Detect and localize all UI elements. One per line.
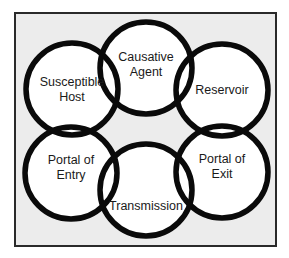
reservoir-label-line: Reservoir — [195, 83, 249, 97]
susceptible-host-label-line: Host — [59, 90, 85, 104]
portal-of-exit-label-line: Exit — [212, 167, 233, 181]
susceptible-host-label-line: Susceptible — [40, 75, 105, 89]
causative-agent-label-line: Agent — [130, 65, 163, 79]
portal-of-exit-label-line: Portal of — [199, 152, 246, 166]
chain-of-infection-diagram: CausativeAgentReservoirPortal ofExitTran… — [0, 0, 289, 258]
transmission-label: Transmission — [109, 199, 183, 213]
portal-of-entry-label-line: Entry — [56, 168, 86, 182]
transmission-label-line: Transmission — [109, 199, 183, 213]
portal-of-entry-label-line: Portal of — [48, 153, 95, 167]
reservoir-label: Reservoir — [195, 83, 249, 97]
causative-agent-label-line: Causative — [118, 50, 174, 64]
